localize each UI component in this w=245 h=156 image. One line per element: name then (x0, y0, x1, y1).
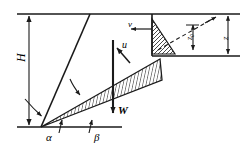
diagram-svg (0, 0, 245, 156)
alpha-angle-arc (25, 99, 42, 116)
beta-angle-arc (70, 79, 80, 95)
alpha-label: α (46, 131, 52, 143)
pore-pressure-arrow (117, 48, 130, 63)
z0-label: z₀ (185, 34, 194, 40)
figure-canvas: H α β W u v z₀ z (0, 0, 245, 156)
beta-label: β (94, 131, 99, 143)
velocity-label: v (128, 19, 132, 29)
weight-force-label: W (118, 104, 128, 116)
pore-pressure-label: u (122, 39, 127, 50)
z-label: z (220, 36, 230, 40)
failure-wedge-hatched (41, 59, 162, 127)
height-label: H (14, 53, 29, 62)
inset-diagonal-arrow (205, 17, 216, 23)
pressure-distribution-triangle (152, 19, 175, 54)
